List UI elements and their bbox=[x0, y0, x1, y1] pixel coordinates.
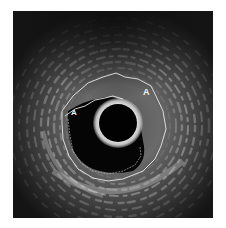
label-a-right: A bbox=[143, 88, 150, 97]
label-a-left: A bbox=[71, 108, 77, 117]
catheter-core bbox=[99, 104, 137, 142]
ivus-image bbox=[13, 11, 213, 218]
ultrasound-frame: A A bbox=[13, 11, 213, 218]
